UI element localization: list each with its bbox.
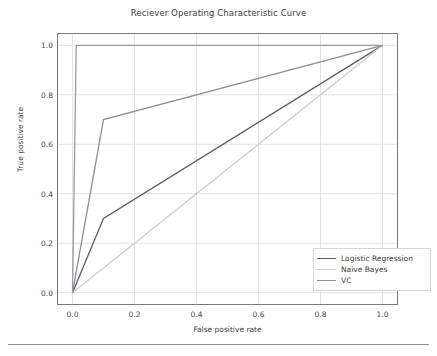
x-tick-label: 0.4 [177, 310, 217, 319]
legend-item[interactable]: VC [317, 275, 426, 286]
legend-item[interactable]: Naive Bayes [317, 264, 426, 275]
x-tick-label: 1.0 [363, 310, 403, 319]
x-axis-label: False positive rate [57, 325, 398, 334]
x-tick-label: 0.0 [53, 310, 93, 319]
y-tick-label: 0.4 [25, 189, 53, 198]
y-tick-label: 0.8 [25, 90, 53, 99]
y-tick-label: 0.2 [25, 239, 53, 248]
legend-item[interactable]: Logistic Regression [317, 253, 426, 264]
x-tick-label: 0.6 [239, 310, 279, 319]
legend-swatch-icon [317, 258, 336, 259]
y-tick-label: 1.0 [25, 41, 53, 50]
legend-label: Naive Bayes [341, 265, 387, 274]
x-tick-label: 0.8 [301, 310, 341, 319]
y-tick-label: 0.0 [25, 288, 53, 297]
y-axis-label: True positive rate [16, 80, 25, 200]
x-tick-label: 0.2 [115, 310, 155, 319]
legend-label: VC [341, 276, 351, 285]
y-axis-tick-labels: 0.00.20.40.60.81.0 [22, 33, 53, 305]
x-axis-tick-labels: 0.00.20.40.60.81.0 [57, 310, 398, 324]
legend-swatch-icon [317, 269, 336, 270]
chart-title: Reciever Operating Characteristic Curve [0, 8, 437, 18]
chart-legend[interactable]: Logistic RegressionNaive BayesVC [313, 248, 431, 291]
roc-chart-figure: Reciever Operating Characteristic Curve … [0, 0, 437, 336]
bottom-divider [8, 344, 429, 345]
legend-label: Logistic Regression [341, 254, 413, 263]
legend-swatch-icon [317, 280, 336, 281]
y-tick-label: 0.6 [25, 140, 53, 149]
